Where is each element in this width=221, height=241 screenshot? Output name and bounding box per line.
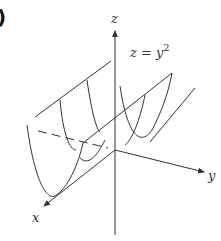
parabolic-cylinder-plot: z y x z = y2 ) — [0, 0, 221, 241]
y-axis — [115, 150, 204, 172]
equation-label: z = y2 — [129, 42, 170, 60]
x-axis — [44, 150, 115, 206]
diagram: z y x z = y2 ) — [0, 0, 221, 241]
y-axis-label: y — [207, 168, 216, 183]
x-axis-label: x — [32, 210, 40, 225]
z-axis-label: z — [110, 11, 118, 26]
panel-marker: ) — [0, 5, 6, 29]
